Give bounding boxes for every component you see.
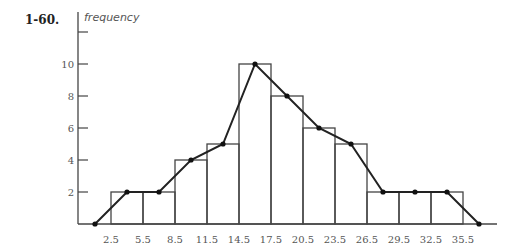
frequency-polygon [95,64,479,224]
polygon-point [188,157,193,162]
x-tick-label: 23.5 [324,234,346,245]
polygon-point [348,141,353,146]
histogram-bar [399,192,431,224]
polygon-point [92,221,97,226]
histogram-bar [335,144,367,224]
histogram-bar [431,192,463,224]
y-tick-label: 10 [61,59,74,70]
x-tick-label: 26.5 [356,234,378,245]
x-tick-label: 8.5 [167,234,183,245]
histogram-bar [367,192,399,224]
histogram-bar [303,128,335,224]
x-tick-label: 2.5 [103,234,119,245]
polygon-point [156,189,161,194]
x-tick-label: 29.5 [388,234,410,245]
histogram-bar [207,144,239,224]
polygon-point [316,125,321,130]
histogram-bar [239,64,271,224]
x-tick-label: 14.5 [228,234,250,245]
histogram-bar [111,192,143,224]
y-tick-label: 2 [68,187,74,198]
x-tick-label: 17.5 [260,234,282,245]
polygon-point [476,221,481,226]
histogram-bar [271,96,303,224]
y-tick-label: 8 [68,91,74,102]
y-tick-label: 6 [68,123,74,134]
x-tick-label: 20.5 [292,234,314,245]
polygon-point [444,189,449,194]
polygon-point [412,189,417,194]
histogram-bar [175,160,207,224]
polygon-point [284,93,289,98]
x-tick-label: 32.5 [420,234,442,245]
x-tick-label: 35.5 [452,234,474,245]
polygon-point [220,141,225,146]
polygon-point [124,189,129,194]
histogram-bar [143,192,175,224]
y-tick-label: 4 [68,155,74,166]
x-tick-label: 11.5 [196,234,218,245]
histogram-chart: 2468102.55.58.511.514.517.520.523.526.52… [0,0,522,250]
polygon-point [380,189,385,194]
polygon-point [252,61,257,66]
x-tick-label: 5.5 [135,234,151,245]
